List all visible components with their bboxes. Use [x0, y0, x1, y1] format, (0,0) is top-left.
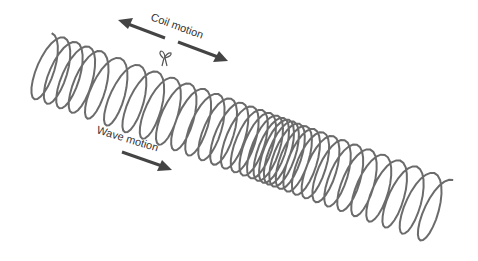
diagram-canvas: Coil motion Wave motion — [0, 0, 478, 261]
ribbon-marker-icon — [160, 51, 171, 66]
spring-coil-path — [32, 33, 454, 240]
wave-motion-label: Wave motion — [95, 123, 160, 153]
wave-motion-arrow — [122, 152, 172, 171]
spring-coils — [32, 33, 454, 240]
spring-diagram: Coil motion Wave motion — [0, 0, 478, 261]
